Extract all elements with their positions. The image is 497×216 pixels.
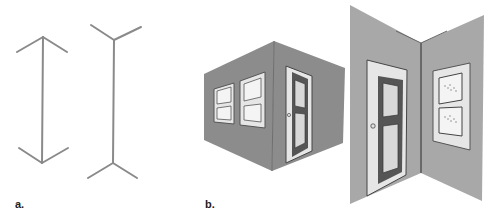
door-outside-corner: [286, 66, 312, 163]
picture-frame-right: [240, 72, 265, 128]
illustration-canvas: [0, 0, 497, 216]
muller-lyer-figure: a. b.: [0, 0, 497, 216]
panel-label-a: a.: [15, 198, 24, 210]
picture-frame-left: [214, 83, 234, 124]
door-inside-corner: [367, 60, 407, 196]
picture-frame-double: [433, 63, 470, 150]
fin-line: [88, 25, 141, 178]
outside-corner-room: [204, 41, 345, 171]
arrowhead-line: [17, 37, 68, 163]
inside-corner-room: [350, 5, 484, 204]
panel-label-b: b.: [205, 198, 215, 210]
